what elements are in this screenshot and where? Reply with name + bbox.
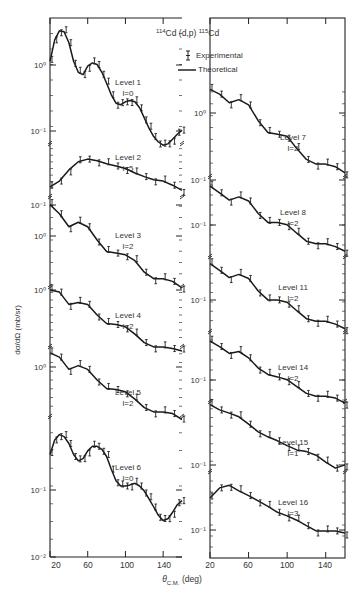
cross-section-figure: Level 1l=010⁰10⁻¹Level 2l=510⁻¹Level 3l=…	[0, 0, 364, 598]
y-axis-label: dσ/dΩ (mb/sr)	[13, 305, 22, 355]
level-label: Level 14	[278, 363, 309, 372]
level-label: Level 4	[115, 311, 141, 320]
level-label: Level 7	[280, 133, 306, 142]
left-panel-frame	[50, 18, 182, 557]
axis-break-icon	[180, 344, 184, 349]
experimental-point	[107, 451, 110, 457]
y-tick-label: 10⁻¹	[190, 461, 206, 470]
theoretical-curve	[50, 205, 182, 288]
legend-theoretical-label: Theoretical	[198, 65, 238, 74]
experimental-point	[107, 78, 110, 84]
axis-break-icon	[180, 141, 184, 146]
y-tick-label: 10⁻²	[30, 553, 46, 562]
level-label: Level 6	[115, 463, 141, 472]
theoretical-curve	[50, 31, 182, 145]
l-value-label: l=2	[288, 374, 299, 383]
level-label: Level 11	[278, 283, 308, 292]
experimental-point	[150, 123, 153, 129]
theoretical-curve	[210, 186, 345, 251]
svg-text:60: 60	[83, 560, 93, 570]
theoretical-curve	[50, 353, 182, 420]
svg-text:100: 100	[120, 560, 134, 570]
theoretical-curve	[50, 435, 182, 521]
y-tick-label: 10⁻¹	[190, 376, 206, 385]
l-value-label: l=0	[123, 474, 134, 483]
level-label: Level 15	[278, 438, 309, 447]
y-tick-label: 10⁰	[34, 363, 46, 372]
theoretical-curve	[210, 485, 345, 533]
level-label: Level 16	[278, 498, 309, 507]
svg-text:20: 20	[205, 560, 215, 570]
x-axis-label: θC.M. (deg)	[162, 574, 202, 586]
l-value-label: l=2	[288, 219, 299, 228]
legend-error-bar-icon	[186, 51, 190, 60]
experimental-point	[183, 127, 186, 133]
experimental-point	[346, 402, 349, 408]
experimental-point	[136, 256, 139, 262]
experimental-point	[65, 432, 68, 438]
y-tick-label: 10⁻¹	[190, 221, 206, 230]
y-tick-label: 10⁻¹	[30, 201, 46, 210]
axis-break-icon	[180, 284, 184, 289]
theoretical-curve	[210, 341, 345, 403]
y-tick-label: 10⁻¹	[190, 176, 206, 185]
l-value-label: l=5	[123, 164, 134, 173]
svg-text:140: 140	[318, 560, 332, 570]
level-label: Level 3	[115, 231, 141, 240]
l-value-label: l=2	[123, 322, 134, 331]
legend-experimental-label: Experimental	[196, 51, 243, 60]
level-label: Level 8	[280, 208, 306, 217]
x-tick-labels-left: 20 60 100 140	[51, 560, 171, 570]
y-tick-label: 10⁻¹	[30, 127, 46, 136]
svg-text:140: 140	[157, 560, 171, 570]
y-tick-label: 10⁻¹	[190, 296, 206, 305]
l-value-label: l=2	[123, 242, 134, 251]
experimental-point	[65, 27, 68, 33]
level-label: Level 5	[115, 388, 141, 397]
experimental-point	[183, 498, 186, 504]
y-tick-label: 10⁰	[34, 286, 46, 295]
axis-break-icon	[180, 194, 184, 199]
axis-break-icon	[180, 414, 184, 419]
labels-layer: Level 1l=010⁰10⁻¹Level 2l=510⁻¹Level 3l=…	[30, 61, 308, 562]
theoretical-curve	[210, 405, 345, 469]
svg-text:20: 20	[51, 560, 61, 570]
experimental-point	[346, 328, 349, 334]
y-tick-label: 10⁻¹	[190, 526, 206, 535]
l-value-label: l=2	[123, 399, 134, 408]
y-tick-label: 10⁰	[194, 109, 206, 118]
y-tick-label: 10⁰	[34, 61, 46, 70]
x-tick-labels-right: 20 60 100 140	[205, 560, 332, 570]
y-tick-label: 10⁻¹	[30, 486, 46, 495]
experimental-point	[173, 511, 176, 517]
theoretical-curve	[50, 290, 182, 351]
l-value-label: l=2	[288, 144, 299, 153]
level-label: Level 1	[115, 78, 141, 87]
l-value-label: l=0	[123, 89, 134, 98]
theoretical-curve	[210, 264, 345, 329]
experimental-point	[346, 250, 349, 256]
svg-text:60: 60	[243, 560, 253, 570]
level-label: Level 2	[115, 153, 141, 162]
experimental-point	[150, 494, 153, 500]
y-tick-label: 10⁰	[34, 232, 46, 241]
experimental-point	[346, 532, 349, 538]
l-value-label: l=2	[288, 294, 299, 303]
l-value-label: l=3	[288, 509, 299, 518]
chart-title: 114Cd (d,p) 115Cd	[156, 28, 219, 38]
svg-text:100: 100	[280, 560, 294, 570]
l-value-label: l=1	[288, 449, 299, 458]
